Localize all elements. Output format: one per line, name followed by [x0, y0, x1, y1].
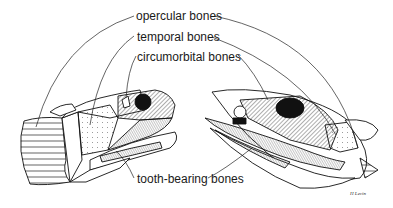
label-temporal-bones: temporal bones — [137, 31, 220, 43]
artist-signature: H Levin — [350, 191, 366, 196]
left-skull — [21, 90, 177, 185]
right-orbit — [276, 98, 304, 118]
label-opercular-bones: opercular bones — [136, 10, 222, 22]
label-circumorbital-bones: circumorbital bones — [137, 51, 241, 63]
left-opercular-region — [21, 117, 70, 184]
left-orbit — [135, 94, 151, 110]
label-tooth-bearing-bones: tooth-bearing bones — [137, 173, 244, 185]
